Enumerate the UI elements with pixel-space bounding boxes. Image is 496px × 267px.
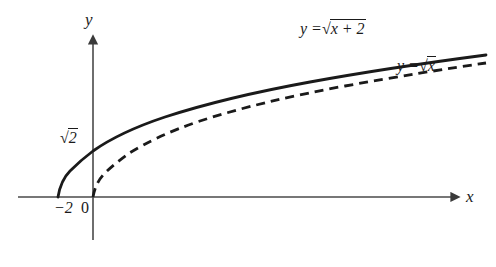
curve-label-sqrt-x-plus-2: y =√x + 2 (300, 19, 366, 37)
curve-sqrt-x-visible (93, 63, 486, 197)
radicand-text: x + 2 (330, 19, 366, 37)
radical-group: √x + 2 (322, 19, 366, 37)
x-tick-label-minus-2: −2 (54, 200, 73, 216)
curve-label-lhs: y = (397, 57, 419, 74)
curve-label-lhs: y = (300, 20, 322, 37)
radical-group: √2 (60, 128, 78, 146)
graph-figure: y x y =√x + 2 y =√x √2 −2 0 (0, 0, 496, 267)
y-tick-label-sqrt2: √2 (60, 128, 78, 146)
radicand-text: x (427, 56, 436, 74)
radicand-text: 2 (68, 128, 78, 146)
curve-sqrt-x-plus-2-visible (58, 55, 486, 197)
origin-label: 0 (81, 200, 89, 216)
y-axis-label: y (85, 11, 93, 28)
radical-group: √x (419, 56, 436, 74)
x-axis-label: x (466, 188, 474, 205)
curve-label-sqrt-x: y =√x (397, 56, 436, 74)
